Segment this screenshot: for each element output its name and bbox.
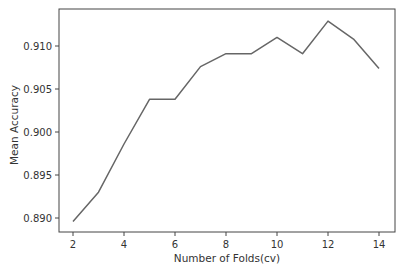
x-axis-label: Number of Folds(cv) — [174, 252, 280, 264]
x-tick-label: 10 — [271, 239, 284, 250]
y-axis-label: Mean Accuracy — [8, 85, 20, 165]
y-tick-label: 0.910 — [23, 41, 52, 52]
y-tick-label: 0.895 — [23, 170, 52, 181]
x-tick-label: 12 — [322, 239, 335, 250]
x-tick-label: 8 — [223, 239, 229, 250]
y-tick-label: 0.905 — [23, 84, 52, 95]
x-tick-label: 14 — [373, 239, 386, 250]
plot-background — [0, 0, 405, 270]
x-tick-label: 2 — [70, 239, 76, 250]
x-tick-label: 6 — [172, 239, 178, 250]
y-tick-label: 0.900 — [23, 127, 52, 138]
y-tick-label: 0.890 — [23, 213, 52, 224]
x-tick-label: 4 — [121, 239, 127, 250]
line-chart: 0.8900.8950.9000.9050.910 2468101214 Num… — [0, 0, 405, 270]
